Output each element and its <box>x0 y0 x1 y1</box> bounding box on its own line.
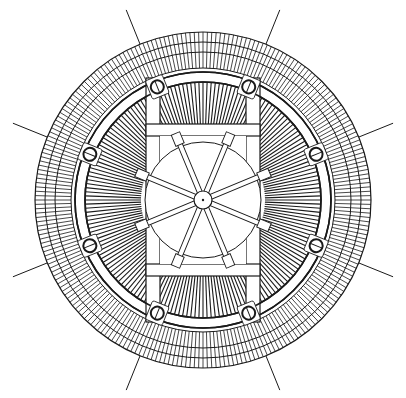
horizontal-bar <box>146 264 260 276</box>
fringe-assembly-drawing <box>0 0 406 398</box>
horizontal-bar <box>146 124 260 136</box>
diagram-canvas <box>0 0 406 398</box>
